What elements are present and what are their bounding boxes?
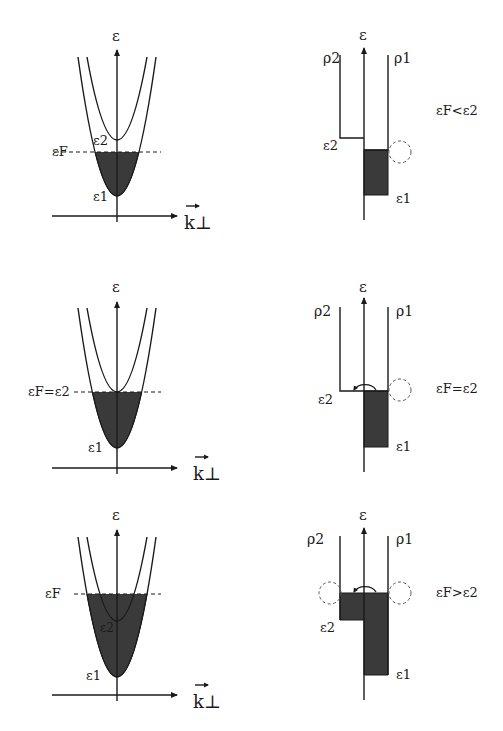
fermi-circle-icon [389,379,411,401]
condition-label: εF=ε2 [436,381,478,396]
band1-label: ε1 [396,191,411,206]
k-axis-label: k⊥ [184,212,212,233]
rho2-step [340,307,364,391]
dos-panel-1: ε ρ2 ρ1 ε2 ε1 [323,26,411,220]
band2-label: ε2 [93,133,108,148]
rho2-label: ρ2 [323,50,340,66]
dispersion-panel-1: ε εF ε2 ε1 k⊥ [52,27,212,233]
fermi-circle-right-icon [389,582,411,604]
rho1-label: ρ1 [394,50,411,66]
fermi-label: εF=ε2 [28,384,70,399]
row-3: ε εF ε2 ε1 k⊥ ε ρ2 ρ1 ε2 ε1 εF>ε2 [45,506,478,712]
energy-axis-label: ε [112,278,120,296]
energy-axis-label: ε [359,26,367,44]
condition-label: εF<ε2 [436,103,478,118]
band1-label: ε1 [93,189,108,204]
k-axis-label: k⊥ [193,463,221,484]
rho1-label: ρ1 [396,303,413,319]
band1-dos-fill [364,150,388,195]
band1-label: ε1 [396,439,411,454]
rho2-label: ρ2 [314,303,331,319]
band-diagram-figure: ε εF ε2 ε1 k⊥ ε ρ2 ρ1 ε2 ε1 εF<ε2 [0,0,503,731]
rho1-step [364,307,388,391]
row-2: ε εF=ε2 ε1 k⊥ ε ρ2 ρ1 ε2 ε1 εF=ε2 [28,278,478,484]
dos-panel-3: ε ρ2 ρ1 ε2 ε1 [307,506,413,700]
dispersion-panel-3: ε εF ε2 ε1 k⊥ [45,506,221,712]
band2-label: ε2 [320,620,335,635]
band2-label: ε2 [323,138,338,153]
band1-label: ε1 [88,440,103,455]
rho1-step [364,55,388,150]
band1-label: ε1 [396,667,411,682]
energy-axis-label: ε [112,27,120,45]
band1-dos-fill [364,391,388,447]
k-axis-label: k⊥ [193,691,221,712]
fermi-circle-icon [389,141,411,163]
transition-arc-arrow [354,587,376,592]
transition-arc-arrow [354,385,376,390]
band2-label: ε2 [318,392,333,407]
fermi-label: εF [45,586,61,601]
fermi-circle-left-icon [319,582,341,604]
condition-label: εF>ε2 [436,585,478,600]
band2-label: ε2 [100,621,114,635]
rho2-step [340,55,364,138]
energy-axis-label: ε [359,278,367,296]
row-1: ε εF ε2 ε1 k⊥ ε ρ2 ρ1 ε2 ε1 εF<ε2 [52,26,478,233]
energy-axis-label: ε [112,506,120,524]
fermi-label: εF [52,144,68,159]
dos-panel-2: ε ρ2 ρ1 ε2 ε1 [314,278,413,472]
band1-label: ε1 [86,668,101,683]
rho1-label: ρ1 [396,531,413,547]
energy-axis-label: ε [359,506,367,524]
rho2-label: ρ2 [307,531,324,547]
dispersion-panel-2: ε εF=ε2 ε1 k⊥ [28,278,221,484]
